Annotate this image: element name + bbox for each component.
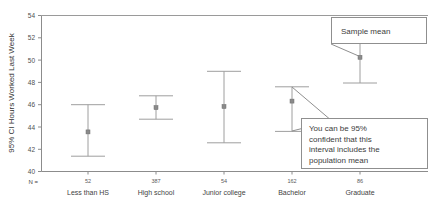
n-value: 387	[151, 178, 160, 184]
y-axis-title: 95% CI Hours Worked Last Week	[7, 32, 16, 152]
n-value: 162	[287, 178, 296, 184]
n-row-header: N =	[28, 179, 38, 185]
n-value: 52	[85, 178, 91, 184]
y-tick-label: 44	[28, 124, 36, 131]
y-tick-label: 52	[28, 34, 36, 41]
error-bar-group-1	[71, 105, 105, 157]
x-category-label: Bachelor	[278, 189, 306, 196]
mean-marker	[290, 99, 294, 103]
y-axis: 54 52 50 48 46 44 42 40	[28, 12, 42, 175]
y-tick-label: 42	[28, 146, 36, 153]
ci-explanation-line: population mean	[309, 156, 368, 165]
y-tick-label: 40	[28, 168, 36, 175]
error-bar-group-2	[139, 96, 173, 119]
y-tick-label: 54	[28, 12, 36, 19]
n-value: 86	[357, 178, 363, 184]
n-value: 54	[221, 178, 227, 184]
ci-explanation-line: confident that this	[309, 135, 372, 144]
ci-explanation-line: You can be 95%	[309, 124, 367, 133]
y-tick-label: 50	[28, 57, 36, 64]
y-tick-40: 40	[28, 168, 42, 175]
y-tick-label: 48	[28, 79, 36, 86]
sample-mean-callout: Sample mean	[332, 18, 427, 44]
x-category-label: High school	[138, 189, 175, 197]
ci-explanation-callout: You can be 95% confident that this inter…	[302, 119, 428, 169]
y-tick-42: 42	[28, 146, 42, 153]
y-tick-46: 46	[28, 101, 42, 108]
y-tick-54: 54	[28, 12, 42, 19]
y-tick-50: 50	[28, 57, 42, 64]
mean-marker	[222, 105, 226, 109]
y-tick-52: 52	[28, 34, 42, 41]
x-category-label: Less than HS	[67, 189, 109, 196]
y-tick-48: 48	[28, 79, 42, 86]
confidence-interval-chart: 54 52 50 48 46 44 42 40 95% CI Hours Wor…	[0, 0, 429, 206]
mean-marker	[154, 106, 158, 110]
mean-marker	[86, 130, 90, 134]
x-category-label: Junior college	[202, 189, 245, 197]
error-bar-group-3	[207, 71, 241, 143]
x-category-label: Graduate	[345, 189, 374, 196]
y-tick-44: 44	[28, 124, 42, 131]
y-tick-label: 46	[28, 101, 36, 108]
sample-mean-callout-text: Sample mean	[341, 27, 390, 36]
sample-mean-leader-line	[331, 44, 361, 57]
ci-explanation-line: interval includes the	[309, 145, 380, 154]
